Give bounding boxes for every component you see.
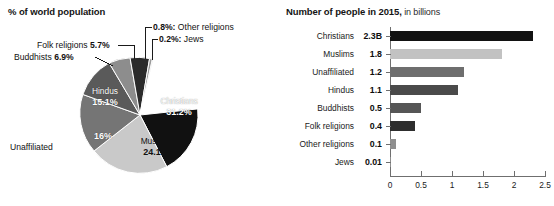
bar-xtick-0 [390,171,391,177]
bar-row-folk-religions: Folk religions 0.4 [280,118,554,134]
bar-chart-x-axis [390,176,545,177]
bar-ytick-3 [386,72,391,73]
bar-xlabel-1: 1 [437,180,467,190]
bar-rect-unaffiliated [390,67,464,77]
bar-label-buddhists: Buddhists [280,100,354,116]
pie-callout-buddhists: Buddhists 6.9% [14,52,74,62]
pie-label-hindus-value: 15.1% [76,97,134,108]
bar-ytick-8 [386,162,391,163]
pie-callout-other-religions-name: Other religions [178,22,234,32]
bar-rect-christians [390,31,533,41]
bar-xlabel-0: 0 [375,180,405,190]
pie-label-christians-name: Christians [147,96,211,107]
bar-value-christians: 2.3B [356,28,382,44]
bar-label-folk-religions: Folk religions [280,118,354,134]
pie-label-christians: Christians 31.2% [147,96,211,117]
leader-line-other-religions [145,27,152,59]
bar-xlabel-0-5: 0.5 [406,180,436,190]
bar-row-hindus: Hindus 1.1 [280,82,554,98]
bar-label-unaffiliated: Unaffiliated [280,64,354,80]
bar-row-unaffiliated: Unaffiliated 1.2 [280,64,554,80]
bar-chart-plot: Christians 2.3B Muslims 1.8 Unaffiliated… [280,0,554,206]
bar-xtick-1 [452,171,453,177]
pie-callout-jews-name: Jews [184,34,204,44]
pie-label-muslims-name: Muslims [125,136,187,147]
pie-callout-jews: 0.2%: Jews [159,34,203,44]
bar-xtick-2 [514,171,515,177]
bar-row-other-religions: Other religions 0.1 [280,136,554,152]
bar-rect-folk-religions [390,121,415,131]
pie-callout-other-religions: 0.8%: Other religions [153,22,234,32]
bar-xtick-0-5 [421,171,422,177]
pie-label-unaffiliated-name: Unaffiliated [10,142,53,152]
bar-ytick-7 [386,144,391,145]
bar-value-unaffiliated: 1.2 [356,64,382,80]
bar-row-muslims: Muslims 1.8 [280,46,554,62]
bar-value-folk-religions: 0.4 [356,118,382,134]
pie-label-unaffiliated-value: 16% [86,131,120,142]
bar-value-other-religions: 0.1 [356,136,382,152]
bar-xlabel-2-5: 2.5 [530,180,554,190]
bar-value-hindus: 1.1 [356,82,382,98]
bar-chart-panel: Number of people in 2015, in billions Ch… [280,0,554,206]
bar-label-muslims: Muslims [280,46,354,62]
leader-line-jews [152,39,158,60]
bar-label-jews: Jews [280,154,354,170]
pie-label-muslims-value: 24.1% [125,147,187,158]
pie-label-hindus-name: Hindus [76,86,134,97]
pie-callout-folk-religions-value: 5.7% [90,40,110,50]
pie-callout-jews-value: 0.2%: [159,34,181,44]
pie-chart-graphic [0,0,280,206]
bar-ytick-5 [386,108,391,109]
bar-label-hindus: Hindus [280,82,354,98]
bar-rect-buddhists [390,103,421,113]
bar-ytick-2 [386,54,391,55]
pie-label-hindus: Hindus 15.1% [76,86,134,107]
pie-label-muslims: Muslims 24.1% [125,136,187,157]
bar-xtick-1-5 [483,171,484,177]
bar-xtick-2-5 [545,171,546,177]
pie-callout-folk-religions-name: Folk religions [37,40,88,50]
pie-callout-folk-religions: Folk religions 5.7% [37,40,110,50]
bar-xlabel-1-5: 1.5 [468,180,498,190]
bar-value-jews: 0.01 [356,154,382,170]
bar-value-buddhists: 0.5 [356,100,382,116]
bar-row-buddhists: Buddhists 0.5 [280,100,554,116]
bar-ytick-4 [386,90,391,91]
pie-label-christians-value: 31.2% [147,107,211,118]
bar-row-jews: Jews 0.01 [280,154,554,170]
bar-label-christians: Christians [280,28,354,44]
bar-label-other-religions: Other religions [280,136,354,152]
bar-ytick-6 [386,126,391,127]
pie-callout-other-religions-value: 0.8%: [153,22,175,32]
pie-callout-buddhists-value: 6.9% [54,52,74,62]
bar-row-christians: Christians 2.3B [280,28,554,44]
bar-rect-hindus [390,85,458,95]
pie-label-unaffiliated-value-wrap: 16% [86,131,120,142]
leader-line-folk-religions [118,45,134,59]
pie-chart-panel: % of world population [0,0,280,206]
bar-value-muslims: 1.8 [356,46,382,62]
bar-xlabel-2: 2 [499,180,529,190]
bar-rect-muslims [390,49,502,59]
pie-callout-buddhists-name: Buddhists [14,52,52,62]
leader-line-buddhists [95,57,113,66]
bar-ytick-1 [386,36,391,37]
